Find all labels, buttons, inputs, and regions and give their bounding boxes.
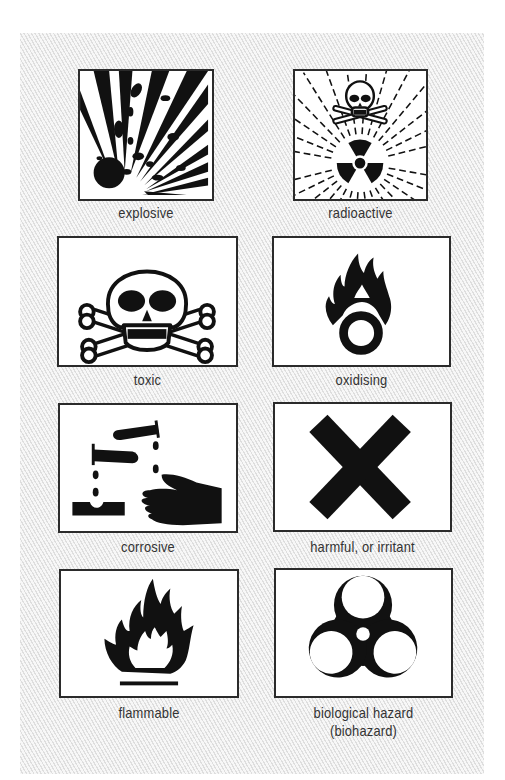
- label-flammable: flammable: [72, 704, 227, 722]
- label-biohazard-line2: (biohazard): [287, 722, 441, 740]
- radiation-ray: [387, 174, 426, 192]
- flame-over-circle-icon: [274, 238, 449, 365]
- radiation-ray: [324, 189, 347, 199]
- flammable-symbol-box: [59, 569, 239, 698]
- radiation-ray: [310, 185, 341, 199]
- radiation-ray: [386, 116, 426, 150]
- biohazard-icon: [276, 570, 451, 696]
- radiation-ray: [389, 168, 426, 176]
- radiation-ray: [295, 170, 332, 182]
- oxidising-symbol-box: [272, 236, 451, 367]
- radiation-ray: [364, 192, 371, 199]
- label-explosive: explosive: [88, 204, 205, 222]
- skull-crossbones-icon: [59, 238, 236, 365]
- radiation-ray: [295, 123, 333, 152]
- radiation-ray: [380, 184, 414, 199]
- radiation-ray: [384, 179, 424, 199]
- explosive-icon: [80, 71, 212, 199]
- radiation-ray: [295, 176, 334, 197]
- explosive-symbol-box: [78, 69, 214, 201]
- saint-andrew-cross-icon: [275, 404, 450, 530]
- label-oxidising: oxidising: [285, 371, 439, 389]
- label-toxic: toxic: [70, 371, 226, 389]
- biohazard-symbol-box: [274, 568, 453, 698]
- radiation-ray: [355, 192, 358, 199]
- flame-icon: [61, 571, 237, 696]
- label-biohazard-line1: biological hazard: [287, 704, 441, 722]
- toxic-symbol-box: [57, 236, 238, 367]
- label-radioactive: radioactive: [302, 204, 418, 222]
- radioactive-icon: [295, 71, 426, 199]
- label-corrosive: corrosive: [71, 538, 226, 556]
- radioactive-symbol-box: [293, 69, 428, 201]
- radiation-ray: [383, 97, 426, 145]
- radiation-ray: [295, 103, 336, 146]
- corrosive-symbol-box: [58, 403, 238, 533]
- corrosive-icon: [60, 405, 236, 531]
- label-harmful: harmful, or irritant: [286, 538, 440, 556]
- harmful-symbol-box: [273, 402, 452, 532]
- radiation-ray: [295, 145, 331, 158]
